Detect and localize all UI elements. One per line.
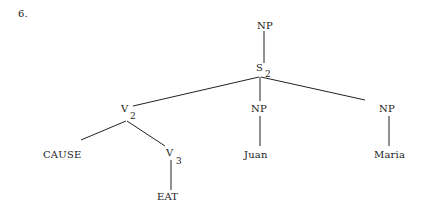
node-v2-subscript: 2	[130, 112, 136, 121]
node-np-juan: NP	[251, 104, 267, 114]
node-np-top: NP	[257, 21, 273, 31]
edge-v2-cause	[81, 121, 126, 140]
edge-s2-v2	[133, 77, 259, 106]
node-cause: CAUSE	[43, 150, 81, 160]
edge-v2-v3	[127, 121, 165, 146]
edge-s2-np-maria	[261, 77, 365, 100]
node-v3-subscript: 3	[176, 157, 182, 166]
node-juan: Juan	[244, 150, 268, 160]
tree-edges	[0, 0, 427, 201]
node-np-maria: NP	[379, 104, 395, 114]
node-s2-subscript: 2	[265, 70, 271, 79]
node-s2-label: S	[256, 63, 263, 73]
node-maria: Maria	[374, 150, 405, 160]
node-v2-label: V	[121, 104, 128, 114]
node-v3-label: V	[166, 148, 173, 158]
node-eat: EAT	[157, 192, 178, 201]
